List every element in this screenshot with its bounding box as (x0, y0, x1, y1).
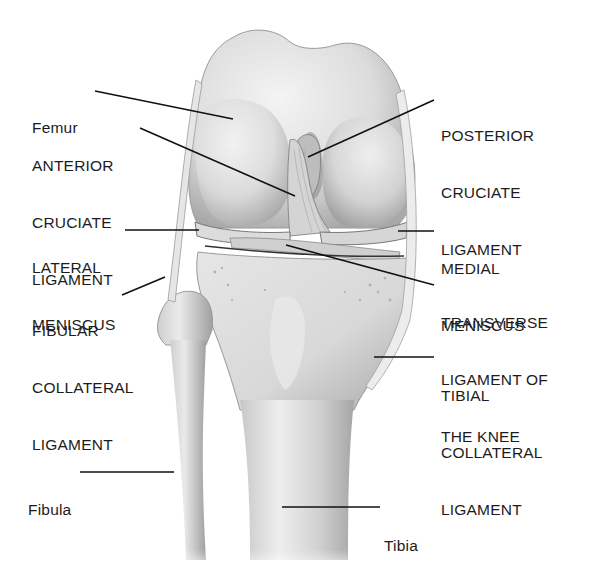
label-fibula: Fibula (28, 462, 71, 538)
medial-condyle (322, 117, 410, 228)
label-fibular-collateral-ligament: FIBULAR COLLATERAL LIGAMENT (32, 283, 134, 473)
label-tibial-collateral-ligament: TIBIAL COLLATERAL LIGAMENT (441, 348, 543, 538)
fibula-head (157, 291, 212, 345)
label-tibia: Tibia (384, 498, 418, 574)
